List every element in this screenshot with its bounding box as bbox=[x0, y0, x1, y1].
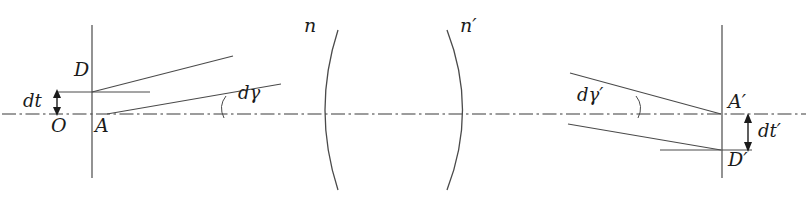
optical-ray-diagram: D O A dt dγ n n′ dγ′ A′ D′ dt′ bbox=[0, 0, 808, 204]
object-upper-ray bbox=[92, 56, 233, 92]
label-image-axis-point-A-prime: A′ bbox=[728, 92, 746, 111]
dt-prime-dimension-arrow bbox=[744, 113, 752, 152]
label-refractive-index-n-prime: n′ bbox=[460, 16, 477, 35]
dgamma-prime-angle-arc bbox=[636, 96, 641, 118]
label-image-height-dt-prime: dt′ bbox=[758, 122, 781, 140]
label-object-height-dt: dt bbox=[23, 92, 42, 110]
dt-dimension-arrow bbox=[53, 89, 61, 116]
label-angle-dgamma: dγ bbox=[238, 84, 260, 102]
label-image-point-D-prime: D′ bbox=[728, 150, 748, 169]
label-refractive-index-n: n bbox=[304, 16, 316, 35]
label-origin-O: O bbox=[51, 116, 67, 135]
label-angle-dgamma-prime: dγ′ bbox=[577, 86, 603, 104]
image-lower-ray bbox=[568, 124, 721, 150]
dgamma-angle-arc bbox=[221, 96, 226, 118]
lens-front-surface-arc bbox=[325, 30, 338, 190]
label-object-point-D: D bbox=[74, 60, 89, 79]
lens-rear-surface-arc bbox=[447, 30, 463, 190]
diagram-canvas bbox=[0, 0, 808, 204]
label-axis-point-A: A bbox=[95, 116, 109, 135]
